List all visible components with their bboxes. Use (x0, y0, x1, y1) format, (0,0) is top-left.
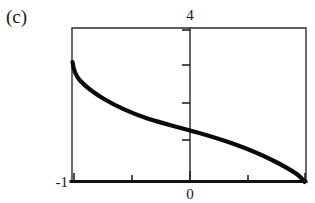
bottom-axis-label: 0 (186, 186, 194, 202)
figure-panel: (c) 4 0 -1 (0, 0, 315, 203)
chart-plot: 4 0 -1 (0, 0, 315, 203)
y-axis-ticks (182, 30, 190, 140)
data-curve (73, 62, 305, 182)
top-axis-label: 4 (186, 7, 194, 23)
left-axis-label: -1 (56, 174, 69, 190)
x-axis-ticks (74, 171, 305, 181)
